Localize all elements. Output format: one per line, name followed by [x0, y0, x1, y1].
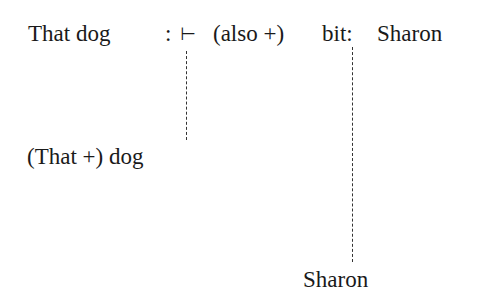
subject-node: (That +) dog: [27, 145, 143, 168]
subject-connector-line: [186, 51, 187, 140]
object-connector-line: [352, 47, 353, 262]
modifier-text: (also +): [213, 22, 284, 45]
turnstile-symbol: ⊢: [180, 25, 196, 43]
subject-text: That dog: [28, 22, 110, 45]
object-node: Sharon: [303, 268, 368, 291]
colon-text: :: [165, 22, 171, 45]
object-text: Sharon: [377, 22, 442, 45]
verb-text: bit:: [322, 22, 353, 45]
